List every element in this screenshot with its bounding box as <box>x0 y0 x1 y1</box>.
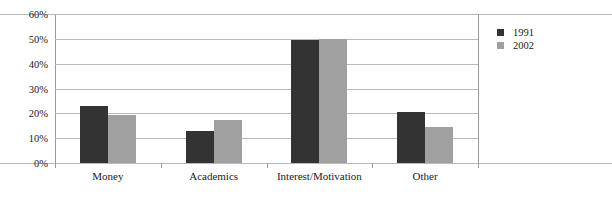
bar-2002-interest-motivation <box>319 39 347 163</box>
y-axis-tick-label: 0% <box>0 158 48 169</box>
bar-2002-money <box>108 115 136 163</box>
bar-1991-other <box>397 112 425 163</box>
gridline-40 <box>55 64 478 65</box>
category-label-academics: Academics <box>161 170 267 183</box>
bar-2002-other <box>425 127 453 163</box>
legend-swatch-icon <box>497 29 504 36</box>
gridline-60 <box>55 14 478 15</box>
legend-label: 1991 <box>513 27 534 38</box>
legend-item-2002: 2002 <box>497 40 534 51</box>
legend-item-1991: 1991 <box>497 27 534 38</box>
legend-swatch-icon <box>497 42 504 49</box>
category-label-money: Money <box>55 170 161 183</box>
x-axis-tick <box>478 163 479 168</box>
chart-bottom-border <box>0 163 612 164</box>
category-label-interest-motivation: Interest/Motivation <box>267 170 373 183</box>
y-axis-tick-label: 60% <box>0 9 48 20</box>
y-axis-tick-label: 50% <box>0 34 48 45</box>
bar-1991-academics <box>186 131 214 163</box>
plot-area <box>55 14 478 163</box>
bar-1991-money <box>80 106 108 163</box>
legend-panel-divider <box>478 14 479 164</box>
bar-1991-interest-motivation <box>291 40 319 163</box>
chart-legend: 19912002 <box>497 27 534 53</box>
gridline-50 <box>55 39 478 40</box>
y-axis-tick-label: 10% <box>0 133 48 144</box>
bar-2002-academics <box>214 120 242 163</box>
x-axis-tick <box>267 163 268 168</box>
y-axis-tick-labels: 60%50%40%30%20%10%0% <box>0 0 52 197</box>
category-label-other: Other <box>372 170 478 183</box>
x-axis-tick <box>372 163 373 168</box>
y-axis-tick-label: 30% <box>0 84 48 95</box>
y-axis-tick-label: 40% <box>0 59 48 70</box>
legend-label: 2002 <box>513 40 534 51</box>
x-axis-tick <box>55 163 56 168</box>
bar-chart: 60%50%40%30%20%10%0% MoneyAcademicsInter… <box>0 0 612 197</box>
y-axis-tick-label: 20% <box>0 108 48 119</box>
gridline-30 <box>55 89 478 90</box>
x-axis-tick <box>161 163 162 168</box>
